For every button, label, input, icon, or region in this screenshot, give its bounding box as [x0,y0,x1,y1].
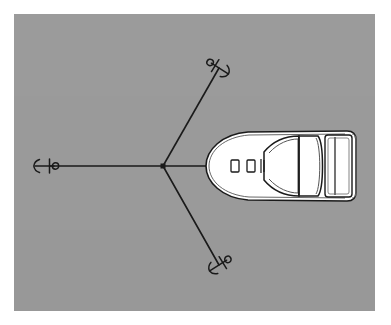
foredeck-hatch-2 [247,160,255,172]
cabin-canopy [299,136,323,196]
foredeck-hatch-1 [231,160,239,172]
cockpit-sole [325,135,352,197]
diagram-canvas [0,0,391,325]
rode-junction-node [161,164,166,169]
plate-tone-band-bottom [14,230,375,311]
boat-graphic [206,131,356,201]
plate-tone-band-top [14,14,375,96]
figure-page: Boat three-point anchor mooring spread (… [0,0,391,325]
mooring-diagram-svg [0,0,391,325]
